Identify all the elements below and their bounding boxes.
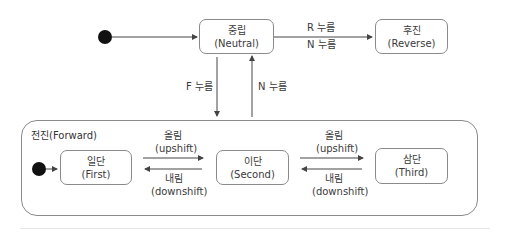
label-upshift-1-en: (upshift) [155,142,197,155]
label-downshift-1-en: (downshift) [151,185,207,198]
state-reverse-en: (Reverse) [388,37,436,50]
label-upshift-2-en: (upshift) [316,142,358,155]
bottom-divider [20,228,490,229]
label-upshift-1-ko: 올림 [164,129,182,142]
label-downshift-1-ko: 내림 [165,172,183,185]
state-third-en: (Third) [395,166,428,179]
state-first-ko: 일단 [87,155,105,168]
state-first-en: (First) [82,168,111,181]
label-upshift-2-ko: 올림 [325,129,343,142]
state-third: 삼단 (Third) [375,148,448,184]
state-second-en: (Second) [230,168,275,181]
state-neutral-en: (Neutral) [214,37,259,50]
state-first: 일단 (First) [60,150,132,185]
forward-composite-label: 전진(Forward) [31,127,97,142]
state-second: 이단 (Second) [216,150,289,185]
state-neutral-ko: 중립 [228,24,246,37]
state-neutral: 중립 (Neutral) [199,19,274,54]
state-reverse-ko: 후진 [403,24,421,37]
state-diagram: 전진(Forward) 중립 (Neutral) 후진 (Reverse) 일단… [0,0,507,234]
initial-node-icon [98,30,112,44]
label-f-press: F 누름 [186,80,213,93]
label-r-press: R 누름 [307,21,335,34]
state-third-ko: 삼단 [403,153,421,166]
state-reverse: 후진 (Reverse) [375,19,448,54]
label-n-press-forward: N 누름 [258,80,287,93]
label-downshift-2-en: (downshift) [312,185,368,198]
state-second-ko: 이단 [244,155,262,168]
label-downshift-2-ko: 내림 [325,172,343,185]
label-n-press-reverse: N 누름 [307,38,336,51]
